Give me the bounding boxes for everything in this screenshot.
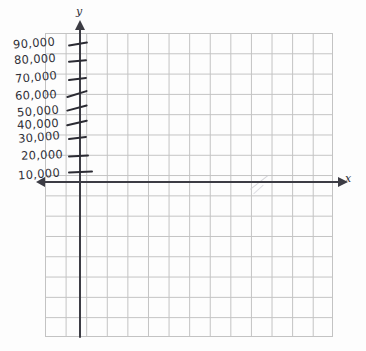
y-axis-value-label-10000: 10,000 — [18, 166, 61, 183]
graph-grid — [45, 33, 333, 337]
y-axis-value-label-20000: 20,000 — [21, 147, 64, 162]
y-axis-arrow-up-icon — [75, 20, 85, 30]
graph-paper-sheet: y x 90,00080,00070,00060,00050,00040,000… — [0, 0, 366, 351]
y-axis-value-label-80000: 80,000 — [14, 51, 57, 67]
y-axis-value-label-90000: 90,000 — [13, 35, 56, 52]
y-axis-value-label-60000: 60,000 — [15, 87, 58, 102]
x-axis-label: x — [345, 172, 351, 185]
y-axis-label: y — [76, 5, 82, 18]
